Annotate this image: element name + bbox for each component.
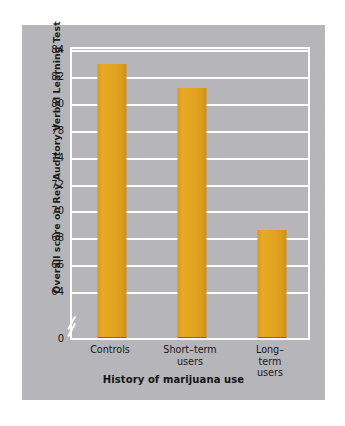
- y-tick-label: 66: [30, 259, 64, 270]
- y-tick-label: 74: [30, 151, 64, 162]
- y-tick-label: 82: [30, 70, 64, 81]
- bar-slot: [152, 49, 232, 338]
- x-axis-tick-labels: ControlsShort–term usersLong–term users: [70, 344, 310, 378]
- y-tick-label: 70: [30, 205, 64, 216]
- bar-slot: [72, 49, 152, 338]
- bar[interactable]: [258, 230, 287, 338]
- bar-slot: [232, 49, 312, 338]
- y-tick-label: 72: [30, 178, 64, 189]
- y-tick-label: 78: [30, 124, 64, 135]
- plot-area: [70, 47, 310, 340]
- bar[interactable]: [178, 88, 207, 338]
- y-tick-label: 0: [30, 333, 64, 344]
- x-tick-label: Short–term users: [163, 344, 216, 367]
- y-tick-label: 84: [30, 44, 64, 55]
- y-tick-label: 80: [30, 97, 64, 108]
- y-tick-label: 68: [30, 232, 64, 243]
- y-tick-label: 64: [30, 286, 64, 297]
- x-axis-title: History of marijuana use: [22, 374, 325, 385]
- bar-series: [72, 49, 308, 338]
- y-axis-tick-labels: 848280787472706866640: [30, 47, 64, 340]
- bar[interactable]: [98, 64, 127, 338]
- x-tick-label: Controls: [90, 344, 130, 356]
- chart-figure: Overall score on Rey Auditory Verbal Lea…: [0, 0, 345, 426]
